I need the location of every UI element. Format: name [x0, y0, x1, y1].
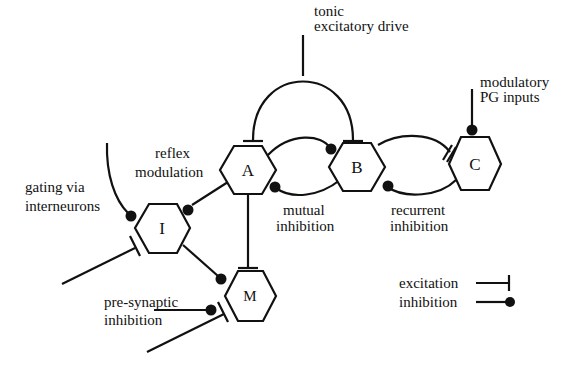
modulatory-label-line2: PG inputs — [480, 89, 540, 105]
gating-label-line2: interneurons — [25, 198, 100, 214]
tonic-label-line1: tonic — [314, 3, 344, 19]
node-c-label: C — [469, 155, 480, 174]
circuit-diagram: tonic excitatory drive modulatory PG inp… — [0, 0, 582, 365]
a-to-i-connection — [183, 182, 229, 216]
gating-input — [107, 143, 137, 222]
modulatory-input — [467, 89, 478, 136]
mutual-label-line1: mutual — [283, 202, 325, 218]
legend-inhibition-label: inhibition — [399, 294, 458, 310]
recurrent-label-line2: inhibition — [390, 218, 449, 234]
legend-excitation-label: excitation — [399, 275, 459, 291]
node-m: M — [225, 271, 276, 321]
gating-label-line1: gating via — [25, 179, 85, 195]
external-input-to-i — [62, 236, 140, 284]
mutual-label-line2: inhibition — [276, 218, 335, 234]
node-a: A — [220, 146, 276, 194]
presynaptic-label-line2: inhibition — [104, 312, 163, 328]
legend: excitation inhibition — [399, 275, 515, 310]
a-to-m-connection — [238, 193, 258, 268]
node-c: C — [449, 137, 501, 190]
i-to-m-connection — [183, 245, 227, 285]
tonic-drive-connection — [243, 35, 363, 141]
reflex-label-line2: modulation — [135, 164, 204, 180]
node-a-label: A — [242, 161, 255, 180]
tonic-label-line2: excitatory drive — [314, 18, 409, 34]
reflex-label-line1: reflex — [155, 145, 190, 161]
recurrent-connection-arcs — [378, 136, 456, 195]
node-i-label: I — [159, 219, 165, 238]
node-b: B — [329, 143, 385, 191]
recurrent-label-line1: recurrent — [391, 202, 446, 218]
presynaptic-label-line1: pre-synaptic — [104, 294, 178, 310]
node-m-label: M — [243, 288, 256, 304]
modulatory-label-line1: modulatory — [480, 74, 550, 90]
node-b-label: B — [351, 158, 362, 177]
node-i: I — [135, 204, 190, 253]
